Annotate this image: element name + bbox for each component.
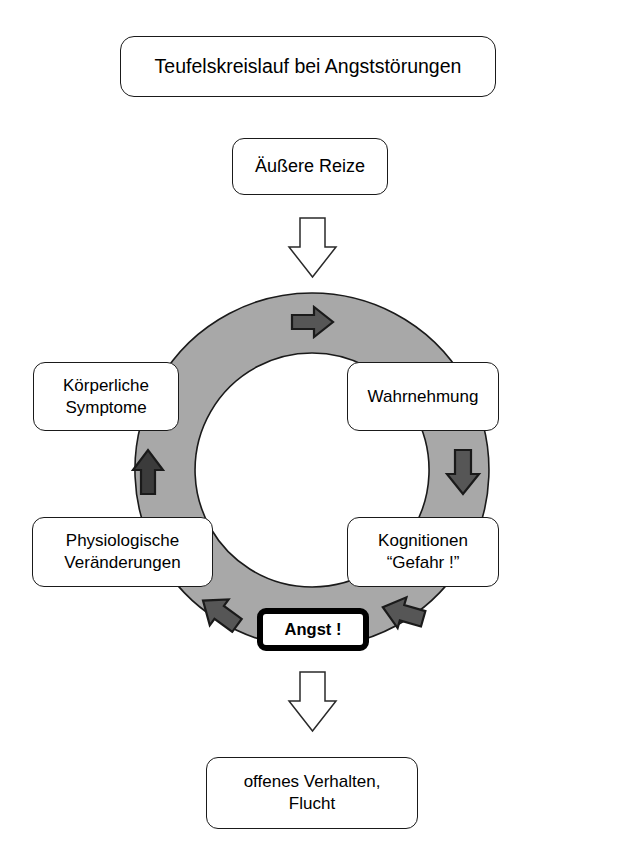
diagram-canvas: Teufelskreislauf bei Angststörungen Äuße… [0, 0, 621, 864]
node-box-wahrnehmung: Wahrnehmung [347, 362, 499, 431]
node-box-physiologische-veraenderungen: Physiologische Veränderungen [32, 517, 213, 587]
node-label-physiologische-line2: Veränderungen [64, 552, 180, 574]
node-box-offenes-verhalten: offenes Verhalten, Flucht [206, 757, 418, 829]
arrow-entry-icon [289, 218, 336, 277]
node-label-koerperliche-line1: Körperliche [63, 375, 149, 397]
diagram-title-text: Teufelskreislauf bei Angststörungen [155, 54, 462, 79]
arrow-exit-icon [289, 672, 336, 731]
node-label-angst: Angst ! [285, 619, 342, 640]
node-label-wahrnehmung: Wahrnehmung [368, 386, 479, 408]
node-box-koerperliche-symptome: Körperliche Symptome [33, 362, 179, 431]
node-label-kognitionen-line1: Kognitionen [378, 530, 468, 552]
node-label-kognitionen-line2: “Gefahr !” [378, 552, 468, 574]
diagram-title-box: Teufelskreislauf bei Angststörungen [120, 36, 496, 97]
hollow-arrows-layer [0, 0, 621, 864]
node-label-aeussere-reize: Äußere Reize [255, 155, 365, 178]
node-box-angst: Angst ! [257, 608, 369, 651]
node-box-kognitionen: Kognitionen “Gefahr !” [347, 517, 499, 587]
node-label-outcome-line1: offenes Verhalten, [244, 771, 381, 793]
node-label-physiologische-line1: Physiologische [64, 530, 180, 552]
node-label-outcome-line2: Flucht [244, 793, 381, 815]
node-box-aeussere-reize: Äußere Reize [232, 138, 388, 195]
node-label-koerperliche-line2: Symptome [63, 397, 149, 419]
